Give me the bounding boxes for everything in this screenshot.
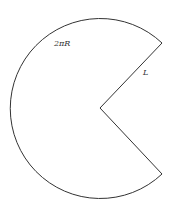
sector-shape bbox=[10, 18, 162, 198]
arc-length-label: 2πR bbox=[53, 39, 70, 48]
sector-diagram: 2πR L bbox=[0, 0, 173, 211]
radius-label: L bbox=[142, 68, 148, 77]
